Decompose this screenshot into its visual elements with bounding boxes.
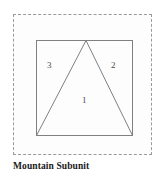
- region-label-1: 1: [82, 96, 87, 105]
- mountain-subunit-diagram: [0, 0, 164, 176]
- region-label-3: 3: [47, 61, 52, 70]
- square-outline: [37, 41, 133, 136]
- region-label-2: 2: [111, 61, 116, 70]
- triangle-outline: [37, 41, 133, 136]
- figure-caption: Mountain Subunit: [13, 161, 89, 171]
- figure-container: 3 2 1 Mountain Subunit: [0, 0, 164, 176]
